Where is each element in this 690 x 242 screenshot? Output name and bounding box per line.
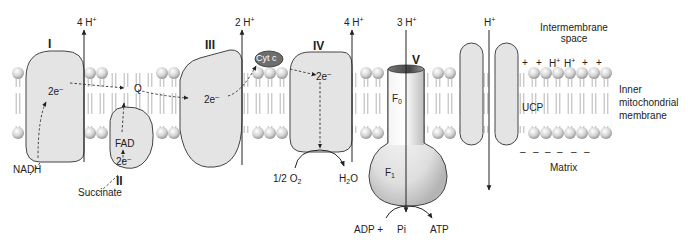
f1-label: F1 (385, 167, 395, 181)
ucp-proton: H+ (484, 14, 495, 28)
complex-iv (290, 52, 352, 152)
ubiquinone-label: Q (134, 83, 142, 94)
atp-label: ATP (430, 224, 449, 235)
fad-label: FAD (115, 138, 134, 149)
complex-v-protons: 3 H+ (397, 14, 417, 28)
complex-iii (180, 50, 242, 167)
succinate-label: Succinate (78, 187, 122, 198)
cyt-c-label: Cyt c (256, 53, 277, 64)
ucp-label: UCP (522, 102, 543, 113)
electron-label-4: 2e– (316, 68, 331, 82)
complex-iii-protons: 2 H+ (235, 14, 255, 28)
complex-iv-protons: 4 H+ (344, 14, 364, 28)
complex-iv-label: IV (313, 39, 324, 53)
complex-ii-label: II (116, 174, 123, 188)
oxygen-label: 1/2 O2 (273, 173, 301, 187)
f0-label: F0 (392, 93, 402, 107)
pi-label: Pi (397, 224, 406, 235)
complex-i (26, 51, 84, 162)
inner-membrane-label: Innermitochondrialmembrane (619, 83, 678, 122)
complex-iii-label: III (205, 38, 215, 52)
adp-label: ADP + (354, 224, 383, 235)
electron-label-2: 2e– (116, 153, 131, 167)
electron-label-3: 2e– (204, 91, 219, 105)
complex-i-label: I (48, 37, 51, 51)
complex-v-label: V (412, 53, 420, 67)
matrix-label: Matrix (550, 162, 577, 173)
water-label: H2O (339, 173, 358, 187)
electron-label-1: 2e– (48, 83, 63, 97)
intermembrane-space-label: Intermembranespace (534, 22, 614, 44)
nadh-label: NADH (13, 164, 41, 175)
complex-i-protons: 4 H+ (77, 14, 97, 28)
